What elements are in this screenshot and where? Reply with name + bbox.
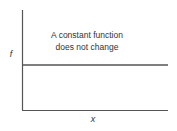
annotation-line-2: does not change: [56, 42, 119, 52]
annotation-line-1: A constant function: [51, 30, 123, 40]
x-axis-label: x: [90, 114, 96, 124]
y-axis-label: f: [10, 49, 14, 59]
constant-function-chart: A constant function does not change f x: [0, 0, 177, 131]
